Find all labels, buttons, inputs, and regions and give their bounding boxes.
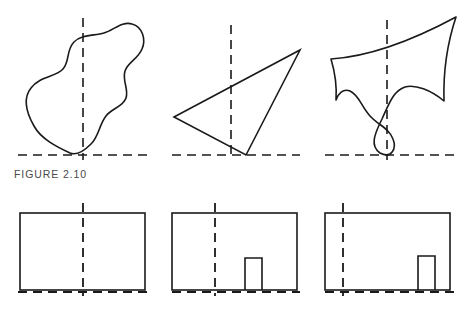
- panel-rect-door-center: [172, 203, 300, 296]
- triangle-outline: [174, 50, 300, 155]
- figure-2-11-block: FIGURE 2.11: [0, 190, 471, 318]
- panel-rect-door-right: [325, 203, 455, 296]
- blob-outline: [26, 23, 143, 153]
- door-outline-right: [418, 256, 435, 290]
- figure-2-10-canvas: [0, 0, 471, 190]
- panel-rect-plain: [18, 203, 148, 296]
- door-outline-center: [245, 258, 262, 290]
- figure-caption-2-10: FIGURE 2.10: [14, 168, 87, 180]
- panel-blob: [18, 18, 148, 160]
- figure-page: FIGURE 2.10: [0, 0, 471, 318]
- rectangle-outline-door-center: [172, 213, 297, 290]
- figure-2-10-block: FIGURE 2.10: [0, 0, 471, 190]
- figure-2-11-canvas: [0, 190, 471, 318]
- horn-outline: [331, 17, 456, 155]
- panel-triangle: [172, 25, 300, 160]
- panel-horn: [325, 17, 456, 160]
